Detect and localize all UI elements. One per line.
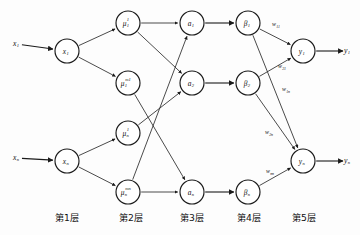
node-b1: β1: [236, 11, 260, 35]
io-label-in1: x1: [12, 39, 19, 48]
edge-bn-to-yn: [259, 168, 290, 186]
node-subscript-b1: 1: [248, 23, 250, 28]
edge-in1-to-x1: [22, 45, 53, 49]
io-label-inn: xn: [12, 153, 20, 162]
edge-b1-to-y1: [260, 29, 291, 45]
node-b2: β2: [236, 71, 260, 95]
weight-label-w2n: w2n: [265, 129, 273, 136]
layer-labels-group: 第1层第2层第3层第4层第5层: [55, 212, 316, 223]
neural-network-diagram: x1xnμ11μ1m1μn1μnmna1a2anβ1β2βny1yn w11w2…: [0, 0, 360, 235]
node-superscript-mu11: 1: [127, 17, 129, 22]
node-subscript-y1: 1: [302, 51, 304, 56]
node-circle-munmn: [116, 180, 140, 204]
edge-munmn-to-a1: [133, 36, 187, 179]
layer-label-layer4: 第4层: [237, 212, 261, 223]
io-label-out1: y1: [343, 46, 350, 55]
node-mu11: μ11: [116, 11, 140, 35]
layer-label-layer1: 第1层: [55, 212, 79, 223]
node-a1: a1: [180, 11, 204, 35]
node-mun1: μn1: [116, 121, 140, 145]
node-label-mu11: μ11: [123, 17, 129, 28]
layer-label-layer3: 第3层: [180, 212, 204, 223]
node-circle-mu1m1: [116, 71, 140, 95]
edge-xn-to-munmn: [79, 167, 116, 186]
edge-x1-to-mu1m1: [79, 57, 116, 76]
node-superscript-munmn: mn: [125, 186, 131, 191]
edge-x1-to-mu11: [79, 29, 115, 46]
weight-label-w21: w21: [278, 63, 286, 70]
weight-label-w11: w11: [272, 21, 280, 28]
node-superscript-mun1: 1: [127, 127, 129, 132]
node-subscript-mu11: 1: [127, 23, 129, 28]
node-x1: x1: [55, 39, 79, 63]
node-mu1m1: μ1m1: [116, 71, 140, 95]
node-a2: a2: [180, 71, 204, 95]
weight-label-w1n: w1n: [282, 86, 290, 93]
node-subscript-a1: 1: [192, 23, 194, 28]
node-y1: y1: [291, 39, 315, 63]
node-subscript-x1: 1: [66, 51, 68, 56]
edge-inn-to-xn: [22, 158, 53, 160]
layer-label-layer5: 第5层: [292, 212, 316, 223]
node-yn: yn: [291, 149, 315, 173]
node-superscript-mu1m1: m1: [125, 77, 131, 82]
node-subscript-mu1m1: 1: [125, 83, 127, 88]
node-an: an: [180, 180, 204, 204]
node-munmn: μnmn: [116, 180, 140, 204]
network-svg: x1xnμ11μ1m1μn1μnmna1a2anβ1β2βny1yn w11w2…: [0, 0, 360, 235]
node-label-mun1: μn1: [122, 127, 129, 138]
layer-label-layer2: 第2层: [119, 212, 143, 223]
io-label-outn: yn: [343, 156, 351, 165]
node-bn: βn: [236, 180, 260, 204]
weight-label-wnn: wnn: [266, 168, 274, 175]
edge-xn-to-mun1: [79, 139, 115, 156]
edge-b2-to-yn: [256, 94, 295, 150]
weight-labels-group: w11w21w1nw2nwnn: [265, 21, 290, 175]
node-xn: xn: [55, 149, 79, 173]
